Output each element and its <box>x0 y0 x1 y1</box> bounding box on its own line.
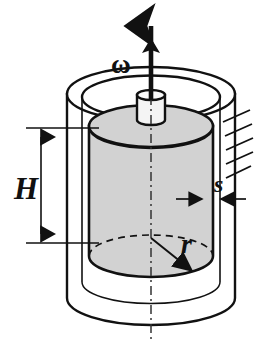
diagram-canvas: ω H r s <box>0 0 267 347</box>
viscometer-diagram: ω H r s <box>0 0 267 347</box>
label-gap: s <box>213 171 223 197</box>
label-height: H <box>13 171 39 206</box>
label-angular-velocity: ω <box>111 49 131 79</box>
label-radius: r <box>181 228 193 259</box>
